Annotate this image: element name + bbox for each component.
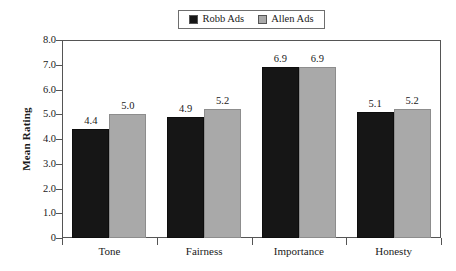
x-tick-mark — [157, 238, 158, 245]
bar-honesty-robb-ads — [357, 112, 394, 238]
x-tick-mark — [441, 238, 442, 245]
legend-label-allen-ads: Allen Ads — [271, 14, 313, 25]
y-tick-label: 7.0 — [30, 60, 56, 71]
bar-fairness-allen-ads — [204, 109, 241, 238]
x-tick-label-honesty: Honesty — [375, 246, 412, 257]
chart-figure: Robb Ads Allen Ads Mean Rating 01.02.03.… — [0, 0, 456, 271]
bar-fairness-robb-ads — [167, 117, 204, 238]
bar-importance-allen-ads — [299, 67, 336, 238]
bar-value-label: 5.2 — [216, 96, 229, 107]
x-tick-label-importance: Importance — [274, 246, 324, 257]
bar-value-label: 6.9 — [311, 54, 324, 65]
y-tick-label: 1.0 — [30, 208, 56, 219]
x-tick-label-tone: Tone — [98, 246, 120, 257]
bar-value-label: 4.4 — [84, 116, 97, 127]
bar-honesty-allen-ads — [394, 109, 431, 238]
x-tick-label-fairness: Fairness — [186, 246, 223, 257]
x-tick-mark — [62, 238, 63, 245]
bar-importance-robb-ads — [262, 67, 299, 238]
bar-value-label: 5.2 — [406, 96, 419, 107]
bar-tone-allen-ads — [109, 114, 146, 238]
bar-value-label: 5.1 — [369, 99, 382, 110]
y-tick-label: 8.0 — [30, 35, 56, 46]
bar-value-label: 6.9 — [274, 54, 287, 65]
x-tick-mark — [252, 238, 253, 245]
y-tick-label: 0 — [30, 233, 56, 244]
legend-entry-allen-ads: Allen Ads — [258, 14, 313, 25]
legend-swatch-robb-ads-icon — [189, 15, 198, 24]
legend-entry-robb-ads: Robb Ads — [189, 14, 244, 25]
bar-value-label: 4.9 — [179, 104, 192, 115]
bar-tone-robb-ads — [72, 129, 109, 238]
y-tick-label: 3.0 — [30, 159, 56, 170]
legend-swatch-allen-ads-icon — [258, 15, 267, 24]
y-tick-label: 5.0 — [30, 109, 56, 120]
legend-label-robb-ads: Robb Ads — [202, 14, 244, 25]
y-tick-label: 6.0 — [30, 84, 56, 95]
chart-legend: Robb Ads Allen Ads — [178, 10, 325, 29]
y-tick-label: 4.0 — [30, 134, 56, 145]
y-tick-label: 2.0 — [30, 183, 56, 194]
x-tick-mark — [346, 238, 347, 245]
bar-value-label: 5.0 — [121, 101, 134, 112]
